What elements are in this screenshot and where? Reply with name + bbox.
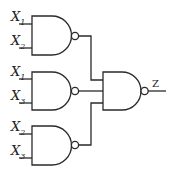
input-label-x3: X3 <box>10 88 25 106</box>
input-label-x2: X2 <box>10 119 25 137</box>
logic-circuit-diagram: X1 X2 X1 X3 X2 X3 Z <box>0 0 173 176</box>
input-label-x3: X3 <box>10 143 25 161</box>
nand-gate-3 <box>19 126 79 165</box>
nand-gate-1 <box>19 16 79 55</box>
output-label-z: Z <box>152 78 159 89</box>
nand-gate-2 <box>19 72 79 110</box>
interconnect-wires <box>79 36 103 145</box>
input-label-x2: X2 <box>10 33 25 51</box>
input-label-x1: X1 <box>10 9 25 27</box>
input-label-x1: X1 <box>10 64 25 82</box>
